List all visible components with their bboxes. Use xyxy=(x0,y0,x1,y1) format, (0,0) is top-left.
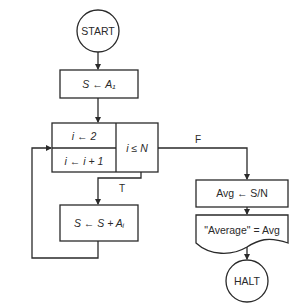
arrow-false-branch xyxy=(158,148,247,179)
flowchart: START S ← A₁ i ← 2 i ← i + 1 i ≤ N T S ←… xyxy=(0,0,304,304)
output-label: "Average" = Avg xyxy=(204,224,280,236)
false-label: F xyxy=(195,134,201,145)
loop-condition-label: i ≤ N xyxy=(126,142,148,154)
start-label: START xyxy=(81,25,115,37)
init-sum-label: S ← A₁ xyxy=(82,78,116,90)
loop-increment-label: i ← i + 1 xyxy=(65,155,104,167)
halt-terminal: HALT xyxy=(226,260,268,302)
loop-init-label: i ← 2 xyxy=(72,130,97,142)
init-sum-process: S ← A₁ xyxy=(60,70,138,98)
output-document: "Average" = Avg xyxy=(196,215,288,253)
loop-block: i ← 2 i ← i + 1 i ≤ N xyxy=(52,123,158,172)
compute-avg-process: Avg ← S/N xyxy=(196,180,288,207)
true-label: T xyxy=(119,183,125,194)
start-terminal: START xyxy=(77,10,119,52)
halt-label: HALT xyxy=(234,275,261,287)
accumulate-label: S ← S + Aᵢ xyxy=(74,217,125,229)
compute-avg-label: Avg ← S/N xyxy=(216,187,268,199)
accumulate-process: S ← S + Aᵢ xyxy=(60,205,138,241)
